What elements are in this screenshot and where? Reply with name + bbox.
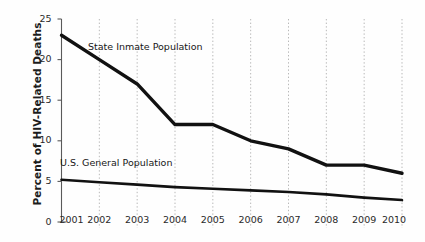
data-series	[62, 35, 403, 200]
series-line-us-general-population	[62, 180, 403, 200]
x-tick-label-2010: 2010	[377, 214, 411, 225]
series-label-state-inmate-population: State Inmate Population	[88, 41, 203, 52]
x-tick-label-2006: 2006	[234, 214, 268, 225]
hiv-related-deaths-line-chart: Percent of HIV-Related Deaths 0510152025…	[0, 0, 425, 242]
x-tick-label-2005: 2005	[196, 214, 230, 225]
x-tick-label-2003: 2003	[120, 214, 154, 225]
series-label-us-general-population: U.S. General Population	[60, 157, 172, 168]
x-tick-label-2004: 2004	[158, 214, 192, 225]
x-tick-label-2002: 2002	[82, 214, 116, 225]
y-tick-label-0: 0	[32, 216, 52, 227]
x-tick-label-2008: 2008	[309, 214, 343, 225]
series-line-state-inmate-population	[62, 35, 403, 173]
plot-area	[0, 0, 425, 242]
y-tick-label-20: 20	[32, 53, 52, 64]
y-tick-label-10: 10	[32, 134, 52, 145]
y-tick-label-15: 15	[32, 94, 52, 105]
y-tick-label-25: 25	[32, 13, 52, 24]
x-tick-label-2007: 2007	[272, 214, 306, 225]
y-tick-label-5: 5	[32, 175, 52, 186]
